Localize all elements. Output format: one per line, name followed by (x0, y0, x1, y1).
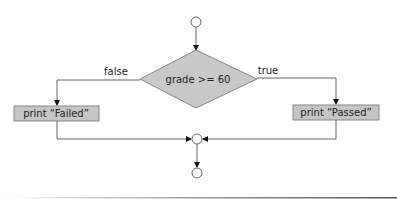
merge-node-icon (192, 134, 202, 144)
bottom-rule-divider (0, 197, 397, 199)
action-print-failed-label: print “Failed” (23, 108, 89, 119)
flowchart-canvas: grade >= 60 false true print “Failed” pr… (0, 0, 397, 199)
false-branch-label: false (104, 66, 128, 77)
end-node-icon (192, 168, 202, 178)
true-branch-label: true (258, 65, 279, 76)
edge-false-branch (57, 80, 140, 105)
start-node-icon (191, 17, 201, 27)
action-print-passed-label: print “Passed” (300, 107, 371, 118)
edge-failed-merge (57, 121, 191, 139)
edge-passed-merge (203, 120, 336, 139)
edge-true-branch (257, 78, 336, 104)
decision-label: grade >= 60 (166, 74, 231, 85)
